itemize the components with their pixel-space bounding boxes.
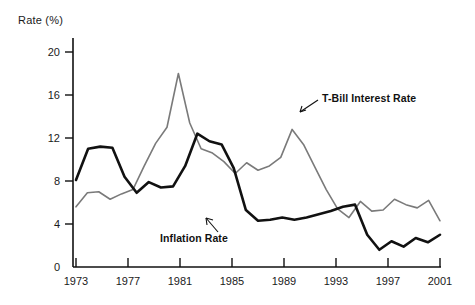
y-axis-title: Rate (%) <box>18 14 63 26</box>
x-tick-label-1997: 1997 <box>362 275 414 287</box>
x-tick-label-1977: 1977 <box>102 275 154 287</box>
x-tick-label-1985: 1985 <box>206 275 258 287</box>
y-tick-label-0: 0 <box>32 261 60 273</box>
y-tick-label-12: 12 <box>32 132 60 144</box>
inflation-series-label: Inflation Rate <box>160 232 228 244</box>
y-tick-label-4: 4 <box>32 218 60 230</box>
y-axis-ticks <box>65 52 73 224</box>
tbill-series-label: T-Bill Interest Rate <box>322 92 416 104</box>
tbill-leader-line <box>300 100 318 112</box>
x-tick-label-1989: 1989 <box>258 275 310 287</box>
y-tick-label-16: 16 <box>32 89 60 101</box>
x-tick-label-1981: 1981 <box>154 275 206 287</box>
y-tick-label-8: 8 <box>32 175 60 187</box>
x-axis-ticks <box>76 258 440 267</box>
rate-line-chart: Rate (%) 20 16 12 8 4 0 1973 1977 1981 1… <box>0 0 475 305</box>
x-tick-label-2001: 2001 <box>414 275 466 287</box>
chart-plot-area <box>0 0 475 305</box>
x-tick-label-1973: 1973 <box>50 275 102 287</box>
y-tick-label-20: 20 <box>32 46 60 58</box>
x-tick-label-1993: 1993 <box>310 275 362 287</box>
series-line-inflation-rate <box>76 134 440 250</box>
